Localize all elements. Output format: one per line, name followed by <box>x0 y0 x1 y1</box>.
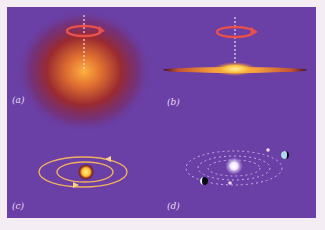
panel-c: (c) <box>7 113 161 218</box>
orbiting-rings-illustration <box>7 113 161 218</box>
central-bulge <box>213 62 257 76</box>
small-planet <box>266 148 270 152</box>
panel-d: (d) <box>162 113 316 218</box>
spinning-disk-illustration <box>162 7 316 112</box>
central-star <box>225 157 243 175</box>
panel-a: (a) <box>7 7 161 112</box>
panel-label-d: (d) <box>167 201 180 211</box>
planet-right <box>281 151 289 159</box>
rotating-cloud-illustration <box>7 7 161 112</box>
figure-panel: (a) <box>7 7 316 218</box>
orbit-direction-arrow-icon <box>105 156 111 162</box>
panel-b: (b) <box>162 7 316 112</box>
central-star <box>79 165 94 180</box>
planetary-system-illustration <box>162 113 316 218</box>
small-planet <box>228 181 232 185</box>
rotation-arrow-icon <box>217 27 258 37</box>
panel-label-c: (c) <box>12 201 24 211</box>
panel-label-a: (a) <box>12 95 24 105</box>
panel-label-b: (b) <box>167 97 180 107</box>
planet-left <box>200 177 208 185</box>
